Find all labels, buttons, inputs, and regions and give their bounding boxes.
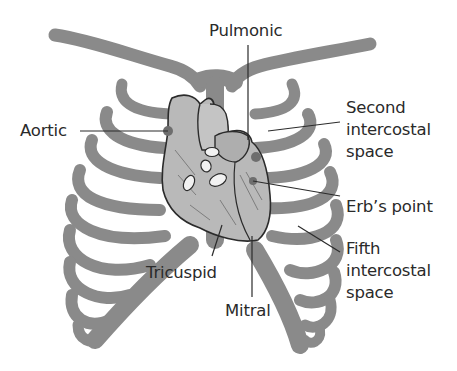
- label-second-intercostal-space: Second intercostal space: [346, 97, 431, 163]
- label-second-line-2: intercostal: [346, 119, 431, 141]
- left-clavicle: [55, 35, 200, 86]
- label-second-line-3: space: [346, 141, 431, 163]
- label-fifth-intercostal-space: Fifth intercostal space: [346, 238, 431, 304]
- right-rib-2: [256, 114, 310, 148]
- right-costal-margin: [255, 250, 300, 345]
- label-tricuspid: Tricuspid: [146, 262, 217, 284]
- right-rib-1: [255, 84, 295, 114]
- label-second-line-1: Second: [346, 97, 431, 119]
- label-erbs-point: Erb’s point: [346, 196, 433, 218]
- right-clavicle: [232, 44, 370, 86]
- label-aortic: Aortic: [20, 120, 67, 142]
- label-fifth-line-2: intercostal: [346, 260, 431, 282]
- chest-diagram: Pulmonic Aortic Second intercostal space…: [0, 0, 457, 371]
- second-ics-dot: [251, 152, 261, 162]
- label-fifth-line-3: space: [346, 282, 431, 304]
- label-fifth-line-1: Fifth: [346, 238, 431, 260]
- pulmonic-valve: [205, 148, 219, 157]
- label-pulmonic: Pulmonic: [209, 20, 282, 42]
- label-mitral: Mitral: [225, 300, 271, 322]
- left-rib-1: [121, 84, 170, 114]
